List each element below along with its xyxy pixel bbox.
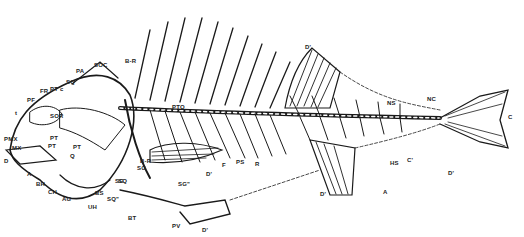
label-q: Q: [70, 153, 75, 159]
label-pf: PF: [27, 97, 35, 103]
label-br2: B-R: [140, 158, 151, 164]
label-bs: BS: [95, 190, 104, 196]
label-sg: SG: [115, 178, 124, 184]
label-pv: PV: [172, 223, 180, 229]
label-sg3: SG": [178, 181, 190, 187]
label-fr: FR: [40, 88, 48, 94]
label-uh: UH: [88, 204, 97, 210]
label-ptc: PT c: [50, 86, 63, 92]
label-bt: BT: [128, 215, 136, 221]
label-sq2: SQ": [107, 196, 119, 202]
label-d_anal: D': [320, 191, 326, 197]
label-sq: SQ: [66, 79, 75, 85]
label-d_dorsal: D': [305, 44, 311, 50]
label-pt1: PT: [50, 135, 58, 141]
label-pmx: PMX: [4, 136, 18, 142]
label-d_tail: D': [448, 170, 454, 176]
label-pto: PTO: [172, 104, 185, 110]
label-c2: C': [407, 157, 413, 163]
label-ch: CH: [48, 189, 57, 195]
label-ns: NS: [387, 100, 396, 106]
label-r: R: [255, 161, 260, 167]
label-a: A: [27, 171, 32, 177]
label-hs: HS: [390, 160, 399, 166]
label-pa: PA: [76, 68, 84, 74]
label-nc: NC: [427, 96, 436, 102]
label-d_pect: D': [206, 171, 212, 177]
label-a_anal: A: [383, 189, 388, 195]
label-br: B-R: [125, 58, 136, 64]
label-ps: PS: [236, 159, 244, 165]
label-sor: SOR: [50, 113, 64, 119]
label-pt2: PT: [48, 143, 56, 149]
label-d_jaw: D: [4, 158, 9, 164]
label-d_pelv: D': [202, 227, 208, 233]
label-c: C: [508, 114, 513, 120]
label-pt_c: PT: [73, 144, 81, 150]
label-sg2: SG: [137, 165, 146, 171]
fish-skeleton-diagram: SOCB-RPASQPT cFRPFtSORPMXMXPTPTQDABHCHAG…: [0, 0, 524, 237]
label-f: F: [222, 162, 226, 168]
label-mx: MX: [12, 145, 21, 151]
label-ag: AG: [62, 196, 71, 202]
skeleton-drawing: [0, 0, 524, 237]
label-soc: SOC: [94, 62, 108, 68]
label-bh: BH: [36, 181, 45, 187]
label-t: t: [15, 110, 17, 116]
